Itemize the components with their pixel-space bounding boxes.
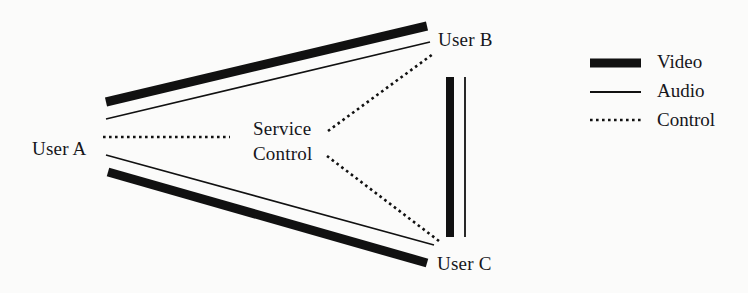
- link-control-service-control-user-c: [327, 156, 439, 241]
- diagram-svg: [0, 0, 748, 293]
- node-label-service-control-line2: Control: [253, 144, 312, 163]
- diagram-canvas: User A User B User C Service Control Vid…: [0, 0, 748, 293]
- node-label-service-control-line1: Service: [253, 119, 311, 138]
- node-label-user-a: User A: [32, 139, 87, 158]
- link-video-user-a-user-b: [106, 26, 427, 102]
- legend-label-video: Video: [657, 52, 702, 71]
- link-control-service-control-user-b: [328, 54, 433, 131]
- node-label-user-c: User C: [437, 254, 492, 273]
- node-label-user-b: User B: [438, 30, 493, 49]
- link-video-user-a-user-c: [108, 172, 427, 263]
- link-audio-user-a-user-b: [106, 42, 430, 119]
- legend-label-audio: Audio: [657, 81, 705, 100]
- legend-label-control: Control: [657, 110, 715, 129]
